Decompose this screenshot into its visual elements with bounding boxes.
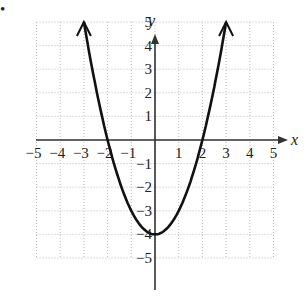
y-tick-label: −3	[136, 203, 152, 219]
y-axis-arrow-icon	[151, 34, 159, 44]
y-tick-label: 4	[145, 38, 153, 54]
parabola-graph: • x y −5−4−3−2−112345 54321−1−2−3−4−5	[0, 0, 307, 307]
x-tick-label: −5	[26, 145, 42, 161]
y-tick-label: 1	[145, 108, 153, 124]
x-tick-label: 5	[270, 145, 278, 161]
y-tick-label: 2	[145, 85, 153, 101]
x-axis-arrow-icon	[278, 136, 288, 144]
y-tick-label: −2	[136, 179, 152, 195]
y-tick-label: −1	[136, 156, 152, 172]
x-axis-label: x	[290, 131, 298, 148]
y-tick-label: −5	[136, 250, 152, 266]
y-tick-label: 5	[145, 14, 153, 30]
x-tick-label: −1	[120, 145, 136, 161]
x-tick-label: 1	[175, 145, 183, 161]
x-tick-label: −3	[73, 145, 89, 161]
bullet-marker: •	[0, 1, 5, 17]
y-axis: y	[146, 12, 159, 290]
x-tick-label: 4	[246, 145, 254, 161]
x-tick-label: −4	[49, 145, 65, 161]
y-tick-label: 3	[145, 61, 153, 77]
x-tick-label: 3	[222, 145, 230, 161]
